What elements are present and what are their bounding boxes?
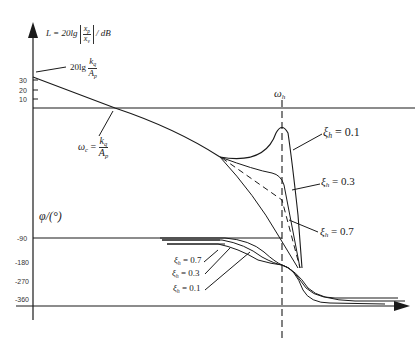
tick-minus-360: -360 bbox=[15, 296, 29, 303]
tick-minus-180: -180 bbox=[15, 259, 29, 266]
diagram-graphics bbox=[0, 0, 417, 341]
label-mag-xi-0.3: ξh = 0.3 bbox=[321, 176, 355, 189]
label-mag-xi-0.1: ξh = 0.1 bbox=[323, 126, 360, 140]
tick-30: 30 bbox=[19, 77, 27, 84]
tick-20: 20 bbox=[19, 87, 27, 94]
label-mag-xi-0.7: ξh = 0.7 bbox=[320, 226, 354, 239]
tick-10: 10 bbox=[19, 96, 27, 103]
magnitude-curve-xi-0.7 bbox=[220, 157, 298, 268]
label-phase-xi-0.3: ξh = 0.3 bbox=[172, 269, 200, 280]
magnitude-curve-common bbox=[33, 77, 220, 157]
bode-diagram: L = 20lg xp xv / dB 20lg kq Ap 30 20 10 … bbox=[0, 0, 417, 341]
label-phase-xi-0.1: ξh = 0.1 bbox=[173, 284, 201, 295]
y-axis-arrow-icon bbox=[28, 22, 38, 38]
omega-h-label: ωh bbox=[274, 88, 285, 101]
tick-minus-90: -90 bbox=[17, 235, 27, 242]
gain-annotation: 20lg kq Ap bbox=[70, 57, 97, 79]
x-axis-arrow-icon bbox=[394, 301, 410, 311]
magnitude-axis-label: L = 20lg xp xv / dB bbox=[46, 25, 111, 44]
label-phase-xi-0.7: ξh = 0.7 bbox=[174, 256, 202, 267]
crossover-annotation: ωc = kq Ap bbox=[78, 136, 108, 160]
magnitude-curve-xi-0.1 bbox=[220, 128, 302, 269]
phase-axis-label: φ/(°) bbox=[39, 210, 62, 222]
tick-minus-270: -270 bbox=[15, 278, 29, 285]
